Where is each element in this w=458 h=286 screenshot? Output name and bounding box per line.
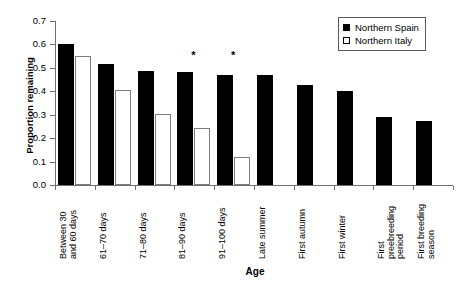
significance-asterisk: * bbox=[188, 50, 198, 61]
x-axis-tick bbox=[254, 186, 255, 190]
x-axis-category-label: Firstpreebreedingperiod bbox=[377, 191, 406, 259]
y-axis-tick-label: 0.1 bbox=[0, 157, 46, 167]
y-axis-tick-label: 0.3 bbox=[0, 110, 46, 120]
bar-chart: Proportion remaining Age 0.00.10.20.30.4… bbox=[0, 0, 458, 286]
x-axis-tick bbox=[453, 186, 454, 190]
category-label-line: season bbox=[427, 191, 437, 259]
bar-northern-spain bbox=[98, 64, 114, 185]
category-label-line: 81–90 days bbox=[178, 191, 188, 259]
x-axis-tick bbox=[334, 186, 335, 190]
bar-northern-italy bbox=[234, 157, 250, 185]
x-axis-category-label: 61–70 days bbox=[99, 191, 109, 259]
legend-item-northern-italy: Northern Italy bbox=[343, 34, 419, 47]
x-axis-category-label: First winter bbox=[338, 191, 348, 259]
category-label-line: and 60 days bbox=[69, 191, 79, 259]
y-axis-tick-label: 0.5 bbox=[0, 63, 46, 73]
bar-northern-italy bbox=[75, 56, 91, 185]
y-axis-tick-label: 0.7 bbox=[0, 16, 46, 26]
chart-legend: Northern Spain Northern Italy bbox=[338, 17, 426, 51]
y-axis-tick-label: 0.6 bbox=[0, 39, 46, 49]
bar-northern-italy bbox=[115, 90, 131, 185]
bar-northern-spain bbox=[217, 75, 233, 185]
x-axis-tick bbox=[55, 186, 56, 190]
bar-northern-spain bbox=[58, 44, 74, 185]
bar-northern-spain bbox=[177, 72, 193, 185]
legend-swatch-open-icon bbox=[343, 37, 350, 44]
x-axis-category-label: Between 30and 60 days bbox=[59, 191, 78, 259]
y-axis-tick-label: 0.0 bbox=[0, 180, 46, 190]
legend-item-northern-spain: Northern Spain bbox=[343, 21, 419, 34]
category-label-line: period bbox=[397, 191, 407, 259]
category-label-line: Late summer bbox=[258, 191, 268, 259]
x-axis-title: Age bbox=[55, 266, 455, 277]
x-axis-category-label: First autumn bbox=[298, 191, 308, 259]
x-axis-tick bbox=[214, 186, 215, 190]
category-label-line: 91–100 days bbox=[218, 191, 228, 259]
category-label-line: 61–70 days bbox=[99, 191, 109, 259]
category-label-line: 71–80 days bbox=[139, 191, 149, 259]
legend-label: Northern Italy bbox=[355, 36, 412, 46]
category-label-line: First winter bbox=[338, 191, 348, 259]
legend-label: Northern Spain bbox=[355, 23, 419, 33]
x-axis-category-label: 81–90 days bbox=[178, 191, 188, 259]
y-axis-tick-label: 0.2 bbox=[0, 133, 46, 143]
x-axis-tick bbox=[95, 186, 96, 190]
bar-northern-spain bbox=[337, 91, 353, 185]
legend-swatch-filled-icon bbox=[343, 24, 350, 31]
x-axis-tick bbox=[135, 186, 136, 190]
bar-northern-spain bbox=[376, 117, 392, 185]
x-axis-tick bbox=[413, 186, 414, 190]
bar-northern-italy bbox=[194, 128, 210, 185]
bar-northern-spain bbox=[257, 75, 273, 185]
bar-northern-spain bbox=[138, 71, 154, 185]
y-axis-tick-label: 0.4 bbox=[0, 86, 46, 96]
bar-northern-spain bbox=[416, 121, 432, 185]
x-axis-tick bbox=[174, 186, 175, 190]
x-axis-tick bbox=[373, 186, 374, 190]
bar-northern-italy bbox=[155, 114, 171, 185]
x-axis-category-label: 71–80 days bbox=[139, 191, 149, 259]
significance-asterisk: * bbox=[228, 50, 238, 61]
x-axis-category-label: First breedingseason bbox=[417, 191, 436, 259]
x-axis-category-label: Late summer bbox=[258, 191, 268, 259]
category-label-line: First autumn bbox=[298, 191, 308, 259]
x-axis-tick bbox=[294, 186, 295, 190]
x-axis-category-label: 91–100 days bbox=[218, 191, 228, 259]
bar-northern-spain bbox=[297, 85, 313, 185]
